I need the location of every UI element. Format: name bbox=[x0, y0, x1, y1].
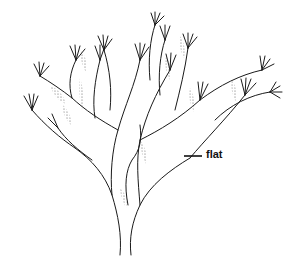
branching-thallus-drawing bbox=[0, 0, 290, 272]
figure-canvas: flat bbox=[0, 0, 290, 272]
flat-label: flat bbox=[206, 148, 223, 160]
